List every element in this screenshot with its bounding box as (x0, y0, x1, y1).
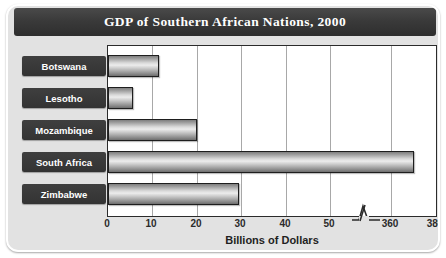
x-axis-ticks: 0 10 20 30 40 50 360 380 (107, 218, 440, 232)
category-label-text: Zimbabwe (41, 189, 87, 200)
category-label-botswana: Botswana (22, 56, 106, 76)
plot-area (107, 45, 437, 217)
tick-label-40: 40 (279, 218, 290, 229)
category-label-column: Botswana Lesotho Mozambique South Africa… (22, 50, 106, 214)
category-label-south-africa: South Africa (22, 152, 106, 172)
chart-title: GDP of Southern African Nations, 2000 (104, 14, 346, 30)
gridline-360 (391, 46, 392, 216)
tick-label-50: 50 (323, 218, 334, 229)
chart-figure: GDP of Southern African Nations, 2000 Bo… (0, 0, 446, 258)
gridline-50 (330, 46, 331, 216)
category-label-text: Lesotho (46, 93, 83, 104)
tick-label-10: 10 (145, 218, 156, 229)
bar-south-africa (108, 151, 414, 173)
category-label-text: Mozambique (35, 125, 93, 136)
category-label-text: Botswana (42, 61, 87, 72)
bar-mozambique (108, 119, 197, 141)
bar-zimbabwe (108, 183, 239, 205)
bar-botswana (108, 55, 159, 77)
gridline-40 (286, 46, 287, 216)
category-label-lesotho: Lesotho (22, 88, 106, 108)
chart-panel: GDP of Southern African Nations, 2000 Bo… (6, 4, 440, 252)
tick-label-360: 360 (382, 218, 399, 229)
bar-lesotho (108, 87, 133, 109)
tick-label-20: 20 (190, 218, 201, 229)
category-label-mozambique: Mozambique (22, 120, 106, 140)
chart-title-bar: GDP of Southern African Nations, 2000 (14, 8, 436, 36)
tick-label-380: 380 (427, 218, 440, 229)
category-label-zimbabwe: Zimbabwe (22, 184, 106, 204)
gridline-30 (241, 46, 242, 216)
tick-label-30: 30 (234, 218, 245, 229)
x-axis-title: Billions of Dollars (107, 234, 437, 246)
category-label-text: South Africa (36, 157, 92, 168)
tick-label-0: 0 (104, 218, 110, 229)
